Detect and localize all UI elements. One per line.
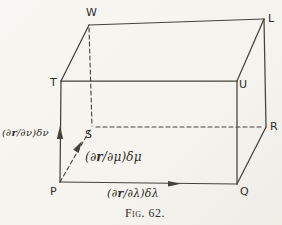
- figure-caption: Fig. 62.: [100, 207, 190, 220]
- vertex-label-l: L: [268, 13, 274, 24]
- edge-label-nu: (∂r/∂ν)δν: [2, 127, 49, 138]
- edge-label-mu-pre: (∂: [85, 150, 96, 164]
- arrow-mu-diagonal-icon: [73, 141, 82, 153]
- vertex-label-w: W: [86, 7, 97, 18]
- edge-label-lambda-post: /∂λ)δλ: [123, 187, 158, 200]
- edge-label-lambda-pre: (∂: [107, 187, 117, 200]
- vertex-label-p: P: [50, 186, 57, 197]
- edge-top-left-WT: [61, 25, 89, 81]
- vertex-label-u: U: [239, 79, 247, 90]
- edge-label-nu-post: /∂ν)δν: [17, 127, 49, 138]
- edge-label-mu-post: /∂μ)δμ: [103, 150, 142, 164]
- figure-62-panel: W L T U S R P Q (∂r/∂ν)δν (∂r/∂μ)δμ (∂r/…: [0, 0, 282, 225]
- edge-front-bottom-PQ: [60, 182, 237, 184]
- edge-top-back-WL: [89, 19, 264, 25]
- edge-top-right-LU: [237, 19, 264, 81]
- edge-hidden-WS: [89, 28, 92, 126]
- arrow-nu-up-icon: [57, 126, 63, 139]
- arrow-lambda-right-icon: [168, 181, 181, 186]
- edge-label-lambda: (∂r/∂λ)δλ: [107, 188, 159, 200]
- vertex-label-s: S: [85, 129, 92, 140]
- vertex-label-t: T: [50, 77, 57, 88]
- edge-label-mu: (∂r/∂μ)δμ: [85, 151, 142, 164]
- vertex-label-q: Q: [240, 186, 249, 197]
- edge-back-right-LR: [264, 19, 266, 127]
- edge-bottom-right-QR: [237, 127, 266, 184]
- vertex-label-r: R: [270, 121, 278, 132]
